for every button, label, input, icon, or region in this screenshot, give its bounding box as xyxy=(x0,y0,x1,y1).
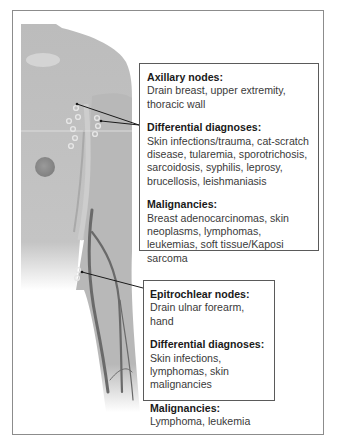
leader-dot xyxy=(81,271,84,274)
section-body: Drain ulnar forearm, hand xyxy=(150,301,270,328)
section-body: Drain breast, upper extremity, thoracic … xyxy=(147,84,312,111)
section-title: Malignancies: xyxy=(150,402,270,415)
epitrochlear-nodes-callout: Epitrochlear nodes: Drain ulnar forearm,… xyxy=(143,280,275,401)
epitrochlear-drainage-section: Epitrochlear nodes: Drain ulnar forearm,… xyxy=(150,288,270,328)
axillary-nodes-callout: Axillary nodes: Drain breast, upper extr… xyxy=(139,63,319,251)
section-title: Differential diagnoses: xyxy=(150,338,270,351)
axillary-differential-section: Differential diagnoses: Skin infections/… xyxy=(147,121,312,188)
section-title: Malignancies: xyxy=(147,198,312,211)
leader-dot xyxy=(76,103,79,106)
section-title: Differential diagnoses: xyxy=(147,121,312,134)
nipple-shape xyxy=(35,157,55,177)
section-body: Skin infections/trauma, cat-scratch dise… xyxy=(147,135,312,189)
epitrochlear-malignancies-section: Malignancies: Lymphoma, leukemia xyxy=(150,402,270,429)
axillary-malignancies-section: Malignancies: Breast adenocarcinomas, sk… xyxy=(147,198,312,265)
section-body: Lymphoma, leukemia xyxy=(150,415,270,428)
section-title: Axillary nodes: xyxy=(147,71,312,84)
section-title: Epitrochlear nodes: xyxy=(150,288,270,301)
axillary-drainage-section: Axillary nodes: Drain breast, upper extr… xyxy=(147,71,312,111)
section-body: Breast adenocarcinomas, skin neoplasms, … xyxy=(147,212,312,266)
section-body: Skin infections, lymphomas, skin maligna… xyxy=(150,352,270,392)
leader-dot xyxy=(100,120,103,123)
arm-shape xyxy=(76,93,140,412)
epitrochlear-differential-section: Differential diagnoses: Skin infections,… xyxy=(150,338,270,392)
